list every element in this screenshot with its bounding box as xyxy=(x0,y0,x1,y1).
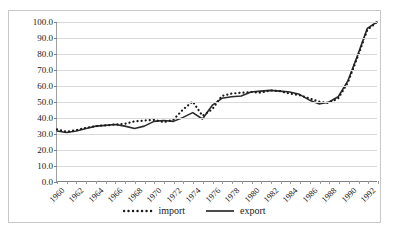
x-axis-tick xyxy=(359,181,360,184)
x-axis-tick xyxy=(252,181,253,184)
gridline xyxy=(57,54,377,55)
x-axis-tick xyxy=(300,181,301,184)
y-axis-tick-label: 10.0 xyxy=(37,162,53,171)
x-axis-tick-label: 1966 xyxy=(106,186,124,204)
x-axis-tick-label: 1986 xyxy=(301,186,319,204)
x-axis-tick xyxy=(222,181,223,184)
y-axis-tick xyxy=(54,70,57,71)
gridline xyxy=(57,38,377,39)
x-axis-tick-label: 1962 xyxy=(67,186,85,204)
y-axis-tick xyxy=(54,22,57,23)
legend-label-export: export xyxy=(240,206,266,216)
legend-label-import: import xyxy=(158,206,185,216)
x-axis-tick xyxy=(154,181,155,184)
y-axis-tick xyxy=(54,150,57,151)
y-axis-tick-label: 40.0 xyxy=(37,114,53,123)
x-axis-tick-label: 1982 xyxy=(262,186,280,204)
y-axis-tick xyxy=(54,118,57,119)
x-axis-tick-label: 1992 xyxy=(359,186,377,204)
legend-key-export-icon xyxy=(205,207,235,215)
x-axis-tick xyxy=(57,181,58,184)
x-axis-tick xyxy=(96,181,97,184)
legend-entry-import: import xyxy=(123,206,185,216)
x-axis-tick-label: 1976 xyxy=(204,186,222,204)
x-axis-tick-label: 1980 xyxy=(243,186,261,204)
x-axis-tick xyxy=(203,181,204,184)
x-axis-tick xyxy=(76,181,77,184)
x-axis-tick-label: 1978 xyxy=(223,186,241,204)
y-axis-tick xyxy=(54,102,57,103)
gridline xyxy=(57,70,377,71)
legend-key-import-icon xyxy=(123,207,153,215)
x-axis-tick xyxy=(339,181,340,184)
x-axis-tick xyxy=(115,181,116,184)
legend-entry-export: export xyxy=(205,206,266,216)
y-axis-tick-label: 50.0 xyxy=(37,98,53,107)
x-axis-tick-label: 1968 xyxy=(126,186,144,204)
x-axis-tick-label: 1988 xyxy=(320,186,338,204)
x-axis-tick xyxy=(174,181,175,184)
x-axis-tick xyxy=(281,181,282,184)
gridline xyxy=(57,102,377,103)
x-axis-tick xyxy=(349,181,350,184)
y-axis-tick-label: 30.0 xyxy=(37,130,53,139)
gridline xyxy=(57,118,377,119)
y-axis-tick-label: 100.0 xyxy=(33,18,53,27)
y-axis-tick xyxy=(54,38,57,39)
y-axis-tick xyxy=(54,86,57,87)
x-axis-tick xyxy=(271,181,272,184)
x-axis-tick xyxy=(290,181,291,184)
x-axis-tick xyxy=(368,181,369,184)
gridline xyxy=(57,86,377,87)
x-axis-tick xyxy=(86,181,87,184)
chart-figure: 100.090.080.070.060.050.040.030.020.010.… xyxy=(8,10,381,223)
x-axis-tick xyxy=(164,181,165,184)
gridline xyxy=(57,166,377,167)
y-axis-tick-label: 90.0 xyxy=(37,34,53,43)
x-axis-tick xyxy=(261,181,262,184)
x-axis-tick xyxy=(125,181,126,184)
x-axis-tick xyxy=(67,181,68,184)
x-axis-tick xyxy=(320,181,321,184)
x-axis-tick-label: 1972 xyxy=(165,186,183,204)
y-axis-tick-label: 20.0 xyxy=(37,146,53,155)
y-axis-tick-label: 80.0 xyxy=(37,50,53,59)
x-axis-tick xyxy=(193,181,194,184)
x-axis-tick-label: 1984 xyxy=(281,186,299,204)
x-axis-tick-label: 1960 xyxy=(48,186,66,204)
x-axis-tick xyxy=(213,181,214,184)
x-axis-tick-label: 1990 xyxy=(340,186,358,204)
y-axis-tick-label: 60.0 xyxy=(37,82,53,91)
x-axis-tick xyxy=(310,181,311,184)
y-axis-tick-label: 70.0 xyxy=(37,66,53,75)
y-axis-tick xyxy=(54,134,57,135)
y-axis-tick xyxy=(54,166,57,167)
x-axis-tick xyxy=(378,181,379,184)
gridline xyxy=(57,150,377,151)
y-axis-tick-label: 0.0 xyxy=(42,178,53,187)
gridline xyxy=(57,134,377,135)
x-axis-tick xyxy=(106,181,107,184)
chart-legend: import export xyxy=(9,206,380,216)
y-axis-tick xyxy=(54,54,57,55)
gridline xyxy=(57,22,377,23)
x-axis-tick xyxy=(183,181,184,184)
x-axis-tick xyxy=(329,181,330,184)
x-axis-tick xyxy=(145,181,146,184)
plot-area: 100.090.080.070.060.050.040.030.020.010.… xyxy=(56,22,377,182)
x-axis-tick-label: 1970 xyxy=(145,186,163,204)
x-axis-tick-label: 1964 xyxy=(87,186,105,204)
x-axis-tick xyxy=(232,181,233,184)
x-axis-tick xyxy=(135,181,136,184)
x-axis-tick xyxy=(242,181,243,184)
x-axis-tick-label: 1974 xyxy=(184,186,202,204)
